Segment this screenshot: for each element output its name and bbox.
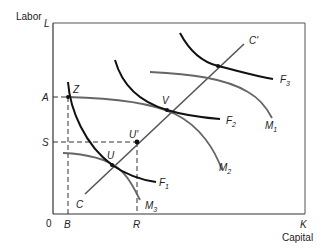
y-tick-a: A bbox=[41, 92, 49, 103]
point-z bbox=[66, 95, 70, 99]
point-u bbox=[110, 163, 114, 167]
label-c: C bbox=[76, 199, 84, 210]
label-c-prime: C' bbox=[249, 35, 259, 46]
isoquant-m2 bbox=[68, 97, 222, 170]
point-v bbox=[165, 108, 169, 112]
label-u-prime: U' bbox=[129, 129, 139, 140]
y-tick-s: S bbox=[42, 137, 49, 148]
label-f3: F3 bbox=[280, 74, 290, 87]
box-frame bbox=[53, 23, 305, 214]
x-axis-title: Capital bbox=[282, 232, 313, 243]
label-v: V bbox=[162, 95, 170, 106]
origin-label: 0 bbox=[46, 218, 52, 229]
x-axis-end-label: K bbox=[300, 219, 308, 230]
y-axis-end-label: L bbox=[44, 18, 50, 29]
point-u-prime bbox=[135, 140, 140, 145]
isoquant-m3 bbox=[63, 153, 140, 200]
label-f2: F2 bbox=[226, 115, 236, 128]
label-m3: M3 bbox=[145, 200, 157, 213]
isoquant-f3 bbox=[180, 33, 273, 79]
point-f3-intersection bbox=[216, 64, 220, 68]
label-m2: M2 bbox=[219, 162, 231, 175]
edgeworth-box-diagram: Labor L K Capital 0 A S B R Z V U U' C C… bbox=[0, 0, 322, 250]
x-tick-b: B bbox=[64, 219, 71, 230]
label-z: Z bbox=[72, 84, 80, 95]
label-f1: F1 bbox=[159, 177, 169, 190]
label-u: U bbox=[107, 150, 115, 161]
x-tick-r: R bbox=[133, 219, 140, 230]
label-m1: M1 bbox=[265, 120, 277, 133]
y-axis-title: Labor bbox=[16, 11, 42, 22]
dashed-guides bbox=[53, 97, 137, 214]
